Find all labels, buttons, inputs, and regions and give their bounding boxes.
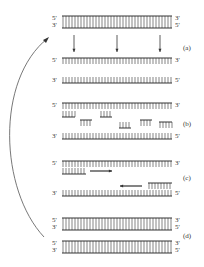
dna-strand [62, 241, 172, 247]
strand-end-label: 5' [52, 102, 57, 109]
dna-strand [62, 58, 172, 64]
step-label-c: (c) [183, 175, 191, 182]
strand-end-label: 3' [52, 77, 57, 84]
dna-fragment [80, 120, 92, 126]
dna-strand [62, 218, 172, 224]
dna-fragment [140, 120, 152, 126]
dna-strand [62, 77, 172, 83]
strand-end-label: 3' [175, 160, 180, 167]
dna-strand [62, 133, 172, 139]
strand-end-label: 5' [175, 133, 180, 140]
dna-strand [62, 161, 172, 167]
dna-fragment [62, 111, 75, 117]
strand-end-label: 3' [52, 133, 57, 140]
dna-fragment [119, 122, 131, 128]
pcr-diagram: (a) (b) (c) (d) 5'3'3'5'5'3'3'5'5'3'3'5'… [0, 0, 204, 267]
primer-forward [62, 168, 86, 174]
dna-strand [62, 224, 172, 230]
dna-fragment [159, 122, 172, 128]
strand-end-label: 5' [175, 22, 180, 29]
cycle-curve-arrow-icon [10, 38, 48, 237]
strand-end-label: 3' [52, 190, 57, 197]
dna-strand [62, 247, 172, 253]
strand-end-label: 5' [175, 224, 180, 231]
primer-reverse [148, 183, 172, 189]
strand-end-label: 3' [175, 102, 180, 109]
strand-end-label: 3' [175, 57, 180, 64]
step-label-b: (b) [183, 121, 191, 128]
dna-strand [62, 22, 172, 28]
step-label-a: (a) [183, 45, 191, 52]
strand-end-label: 5' [175, 247, 180, 254]
dna-strand [62, 16, 172, 22]
dna-strand [62, 190, 172, 196]
strand-end-label: 5' [52, 160, 57, 167]
strand-end-label: 3' [52, 247, 57, 254]
diagram-art [0, 0, 204, 267]
strand-end-label: 3' [52, 224, 57, 231]
dna-fragment [100, 111, 112, 117]
strand-end-label: 5' [175, 77, 180, 84]
strand-end-label: 5' [175, 190, 180, 197]
strand-end-label: 5' [52, 57, 57, 64]
strand-end-label: 3' [52, 22, 57, 29]
dna-strand [62, 103, 172, 109]
step-label-d: (d) [183, 233, 191, 240]
